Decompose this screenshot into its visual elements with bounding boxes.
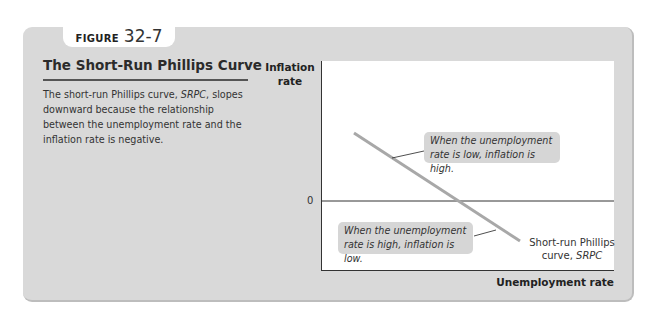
leader-line-bottom: [474, 230, 496, 236]
leader-line-top: [392, 151, 424, 158]
annotation-low-unemployment: When the unemployment rate is low, infla…: [424, 132, 560, 163]
srpc-label: Short-run Phillips curve, SRPC: [527, 236, 617, 262]
annotation-high-unemployment: When the unemployment rate is high, infl…: [338, 222, 473, 254]
x-axis-label: Unemployment rate: [496, 276, 614, 288]
